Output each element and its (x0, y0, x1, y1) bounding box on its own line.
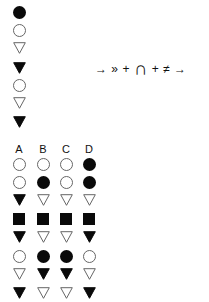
double-chevron-icon: » (111, 62, 118, 76)
filled-circle-icon (13, 6, 26, 19)
option-label-d[interactable]: D (82, 143, 96, 155)
filled-triangle-down-icon (60, 268, 73, 280)
filled-triangle-down-icon (13, 194, 26, 206)
option-label-b[interactable]: B (36, 143, 50, 155)
filled-square-icon (60, 213, 72, 225)
hollow-triangle-down-icon (60, 287, 73, 299)
arrow-right-icon: → (95, 62, 108, 76)
hollow-circle-icon (60, 158, 73, 171)
hollow-circle-icon (83, 250, 96, 263)
filled-square-icon (13, 213, 25, 225)
hollow-circle-icon (13, 158, 26, 171)
hollow-circle-icon (60, 176, 73, 189)
hollow-triangle-down-icon (13, 97, 26, 109)
filled-circle-icon (83, 176, 96, 189)
filled-triangle-down-icon (13, 287, 26, 299)
hollow-triangle-down-icon (13, 42, 26, 54)
hollow-triangle-down-icon (60, 194, 73, 206)
filled-circle-icon (60, 250, 73, 263)
intersection-icon: ∩ (134, 58, 148, 79)
filled-triangle-down-icon (83, 287, 96, 299)
hollow-triangle-down-icon (37, 194, 50, 206)
hollow-circle-icon (13, 79, 26, 92)
hollow-triangle-down-icon (83, 268, 96, 280)
filled-circle-icon (37, 176, 50, 189)
arrow-right-icon: → (174, 62, 187, 76)
filled-triangle-down-icon (13, 116, 26, 128)
filled-circle-icon (37, 250, 50, 263)
hollow-triangle-down-icon (37, 287, 50, 299)
filled-triangle-down-icon (83, 231, 96, 243)
hollow-triangle-down-icon (13, 268, 26, 280)
filled-triangle-down-icon (37, 268, 50, 280)
filled-triangle-down-icon (13, 231, 26, 243)
transform-rule: → » + ∩ + ≠ → (95, 58, 187, 80)
filled-square-icon (83, 213, 95, 225)
filled-triangle-down-icon (13, 62, 26, 74)
hollow-circle-icon (13, 250, 26, 263)
filled-square-icon (37, 213, 49, 225)
option-label-a[interactable]: A (12, 143, 26, 155)
hollow-circle-icon (13, 24, 26, 37)
hollow-triangle-down-icon (60, 231, 73, 243)
not-equal-icon: ≠ (163, 62, 170, 76)
filled-circle-icon (83, 158, 96, 171)
plus-sign: + (152, 62, 160, 76)
hollow-circle-icon (13, 176, 26, 189)
hollow-triangle-down-icon (83, 194, 96, 206)
option-label-c[interactable]: C (59, 143, 73, 155)
plus-sign: + (122, 62, 130, 76)
hollow-triangle-down-icon (37, 231, 50, 243)
hollow-circle-icon (37, 158, 50, 171)
